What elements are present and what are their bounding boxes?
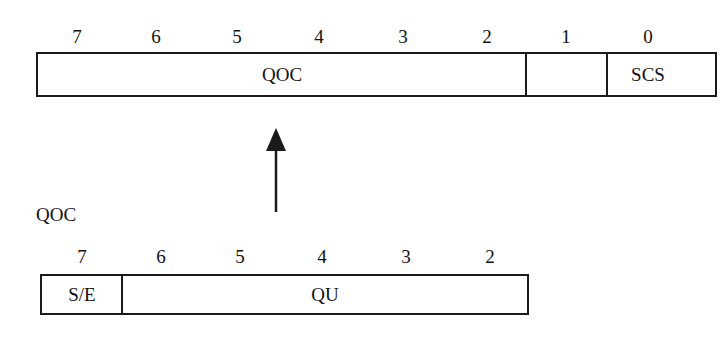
bottom-bit-label-4: 4 bbox=[317, 247, 327, 267]
bottom-bit-label-6: 6 bbox=[156, 247, 166, 267]
bottom-bit-label-3: 3 bbox=[401, 247, 411, 267]
field-qu: QU bbox=[311, 285, 338, 305]
field-s-e: S/E bbox=[68, 285, 95, 305]
bottom-register-caption: QOC bbox=[36, 205, 76, 225]
bottom-bit-label-2: 2 bbox=[485, 247, 495, 267]
bottom-bit-label-5: 5 bbox=[235, 247, 245, 267]
bottom-field-divider bbox=[121, 276, 123, 313]
bottom-register-box: S/E QU bbox=[40, 274, 529, 315]
bottom-bit-label-7: 7 bbox=[77, 247, 87, 267]
